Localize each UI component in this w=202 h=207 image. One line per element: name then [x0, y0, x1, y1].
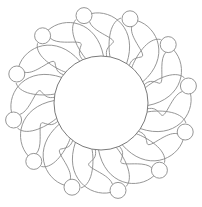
petal-inner-curve	[148, 92, 183, 116]
petal-inner-curve	[36, 121, 57, 153]
petal-inner-curve	[20, 91, 55, 115]
petal-bulb	[64, 179, 80, 195]
petal-inner-curve	[139, 131, 178, 144]
petal-outer-arm	[48, 22, 103, 56]
petal-bulb	[177, 124, 193, 140]
petal-stem	[81, 149, 93, 188]
petal-stem	[42, 139, 70, 167]
petal-bulb	[110, 182, 126, 198]
petal-bulb	[26, 153, 42, 169]
petal-outer-arm	[148, 50, 182, 105]
petal-bulb	[35, 28, 51, 44]
petal-bulb	[151, 162, 167, 178]
petal-inner-curve	[59, 141, 72, 180]
petal-outer-arm	[20, 101, 54, 156]
petal-inner-curve	[129, 27, 142, 66]
petal-inner-curve	[89, 150, 113, 185]
petal-bulb	[6, 112, 22, 128]
petal-bulb	[122, 11, 138, 27]
petal-stem	[37, 44, 65, 72]
petal-stem	[132, 39, 161, 67]
coloring-page	[0, 0, 202, 207]
petal-bulb	[160, 37, 176, 53]
petal-stem	[147, 111, 186, 123]
petal-inner-curve	[51, 38, 83, 59]
petal-inner-curve	[25, 61, 64, 74]
petal-bulb	[180, 78, 196, 94]
petal-stem	[109, 18, 121, 57]
petal-inner-curve	[144, 53, 165, 85]
center-circle	[54, 56, 148, 150]
petal-stem	[16, 83, 55, 95]
petal-inner-curve	[119, 146, 151, 167]
petal-bulb	[9, 66, 25, 82]
petal-outer-arm	[99, 150, 154, 184]
petal-bulb	[76, 8, 92, 24]
petal-stem	[137, 134, 165, 163]
sun-swirl-artwork	[0, 0, 202, 207]
petal-inner-curve	[90, 22, 114, 57]
